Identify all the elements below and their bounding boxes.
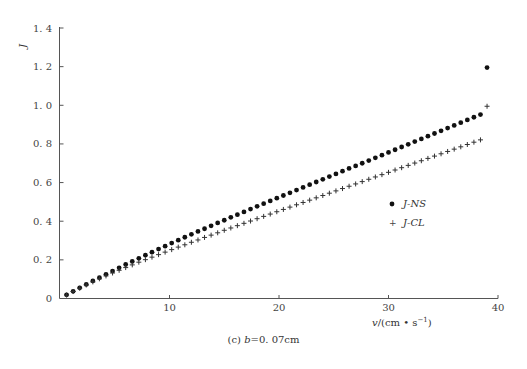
data-point-cl xyxy=(386,170,391,175)
data-point-cl xyxy=(333,188,338,193)
data-point-ns xyxy=(478,112,483,117)
data-point-cl xyxy=(281,207,286,212)
data-point-ns xyxy=(242,210,247,215)
chart-plot: 00. 20. 40. 60. 81. 01. 21. 4 10203040 J… xyxy=(0,0,527,369)
data-point-cl xyxy=(215,230,220,235)
data-point-cl xyxy=(182,242,187,247)
data-point-ns xyxy=(281,193,286,198)
data-point-cl xyxy=(366,177,371,182)
data-point-cl xyxy=(425,156,430,161)
data-point-cl xyxy=(432,154,437,159)
data-point-ns xyxy=(366,158,371,163)
data-point-cl xyxy=(320,193,325,198)
y-tick-label: 1. 2 xyxy=(33,61,52,72)
figure-caption: (c) b=0. 07cm xyxy=(0,334,527,345)
data-point-cl xyxy=(255,216,260,221)
data-point-ns xyxy=(274,196,279,201)
y-ticks: 00. 20. 40. 60. 81. 01. 21. 4 xyxy=(33,23,64,305)
data-point-ns xyxy=(432,131,437,136)
data-point-ns xyxy=(406,142,411,147)
data-point-ns xyxy=(439,128,444,133)
data-point-ns xyxy=(458,120,463,125)
data-point-cl xyxy=(209,233,214,238)
data-point-cl xyxy=(301,200,306,205)
data-point-cl xyxy=(439,151,444,156)
y-axis-label: J xyxy=(17,43,28,50)
data-point-cl xyxy=(412,161,417,166)
data-point-cl xyxy=(130,262,135,267)
data-point-cl xyxy=(360,179,365,184)
data-point-ns xyxy=(314,180,319,185)
data-point-cl xyxy=(228,225,233,230)
data-point-ns xyxy=(360,161,365,166)
data-point-ns xyxy=(189,232,194,237)
data-point-cl xyxy=(406,163,411,168)
y-tick-label: 0. 6 xyxy=(33,177,52,188)
data-point-cl xyxy=(241,221,246,226)
data-point-cl xyxy=(143,257,148,262)
data-point-cl xyxy=(169,247,174,252)
data-point-cl xyxy=(452,147,457,152)
x-tick-label: 20 xyxy=(273,302,286,313)
data-point-ns xyxy=(340,169,345,174)
data-point-ns xyxy=(347,166,352,171)
data-point-ns xyxy=(294,188,299,193)
data-point-ns xyxy=(235,212,240,217)
x-ticks: 10203040 xyxy=(163,295,504,313)
data-point-cl xyxy=(176,245,181,250)
series-j-ns xyxy=(64,65,489,297)
data-point-cl xyxy=(373,174,378,179)
data-point-ns xyxy=(386,150,391,155)
data-point-cl xyxy=(189,240,194,245)
data-point-ns xyxy=(301,185,306,190)
x-tick-label: 10 xyxy=(163,302,176,313)
data-point-cl xyxy=(445,149,450,154)
data-point-ns xyxy=(327,174,332,179)
data-point-ns xyxy=(320,177,325,182)
data-point-cl xyxy=(465,142,470,147)
data-point-ns xyxy=(255,204,260,209)
x-tick-label: 40 xyxy=(492,302,505,313)
data-point-cl xyxy=(478,137,483,142)
data-point-ns xyxy=(176,238,181,243)
y-tick-label: 1. 0 xyxy=(33,100,52,111)
data-point-cl xyxy=(393,168,398,173)
data-point-ns xyxy=(380,153,385,158)
data-point-ns xyxy=(373,155,378,160)
data-point-ns xyxy=(412,139,417,144)
data-point-ns xyxy=(215,221,220,226)
data-point-ns xyxy=(182,235,187,240)
data-point-ns xyxy=(288,190,293,195)
data-point-ns xyxy=(156,247,161,252)
y-tick-label: 1. 4 xyxy=(33,23,52,34)
data-point-cl xyxy=(353,181,358,186)
data-point-ns xyxy=(465,118,470,123)
data-point-cl xyxy=(287,205,292,210)
y-tick-label: 0. 8 xyxy=(33,138,52,149)
x-axis-label: v/(cm • s−1) xyxy=(372,316,432,328)
legend-marker-cl: + xyxy=(389,218,397,228)
data-point-cl xyxy=(195,237,200,242)
data-point-ns xyxy=(163,244,168,249)
data-point-cl xyxy=(149,255,154,260)
legend-label-ns: J-NS xyxy=(401,198,426,209)
data-point-cl xyxy=(294,202,299,207)
data-point-ns xyxy=(419,137,424,142)
data-point-cl xyxy=(136,260,141,265)
data-point-cl xyxy=(340,186,345,191)
data-point-cl xyxy=(399,165,404,170)
data-point-ns xyxy=(169,241,174,246)
data-point-ns xyxy=(353,164,358,169)
data-point-ns xyxy=(248,207,253,212)
x-tick-label: 30 xyxy=(382,302,395,313)
data-point-ns xyxy=(426,134,431,139)
legend-label-cl: J-CL xyxy=(401,217,425,228)
data-point-ns xyxy=(209,223,214,228)
legend-marker-ns xyxy=(390,202,395,207)
data-point-cl xyxy=(314,195,319,200)
data-point-cl xyxy=(163,250,168,255)
data-point-cl xyxy=(379,172,384,177)
data-point-ns xyxy=(393,147,398,152)
y-tick-label: 0. 2 xyxy=(33,254,52,265)
data-point-cl xyxy=(235,223,240,228)
